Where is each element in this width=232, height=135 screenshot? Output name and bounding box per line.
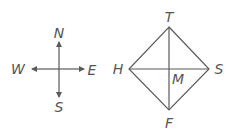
center-label: M (172, 71, 184, 87)
diamond-figure: T H S F M (113, 9, 224, 131)
compass-label-east: E (88, 62, 97, 78)
vertex-label-left: H (113, 61, 124, 77)
vertex-label-right: S (215, 61, 224, 77)
compass-label-south: S (55, 99, 64, 115)
vertex-label-top: T (165, 9, 175, 25)
diagram-canvas: N S W E T H S F M (0, 0, 232, 135)
compass-rose: N S W E (11, 25, 96, 115)
vertex-label-bottom: F (165, 115, 174, 131)
compass-label-west: W (11, 61, 26, 77)
compass-label-north: N (54, 25, 65, 41)
